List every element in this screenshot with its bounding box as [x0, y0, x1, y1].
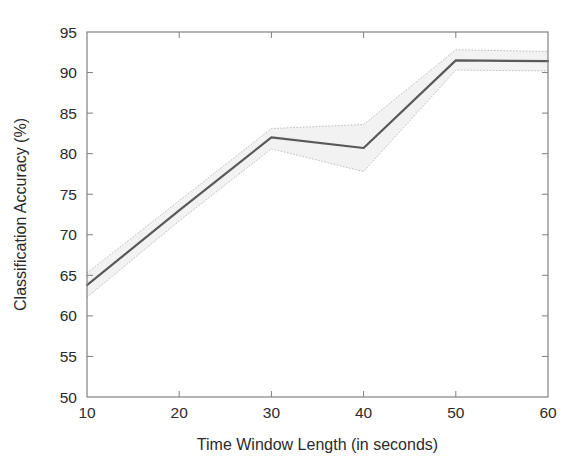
- y-axis-title: Classification Accuracy (%): [12, 118, 29, 311]
- x-tick-label-10: 10: [78, 404, 96, 421]
- x-tick-label-40: 40: [355, 404, 373, 421]
- x-axis-title: Time Window Length (in seconds): [197, 436, 438, 453]
- y-tick-label-85: 85: [60, 105, 77, 122]
- y-tick-label-65: 65: [60, 267, 77, 284]
- y-tick-label-75: 75: [60, 186, 77, 203]
- confidence-band-lower-edge: [87, 70, 548, 297]
- y-tick-label-60: 60: [60, 307, 78, 324]
- y-tick-label-95: 95: [60, 24, 77, 41]
- data-series-line-0: [87, 60, 548, 285]
- x-tick-label-20: 20: [171, 404, 189, 421]
- y-tick-label-70: 70: [60, 226, 78, 243]
- chart-figure: 10203040506050556065707580859095Time Win…: [0, 0, 582, 472]
- chart-plot-area: 10203040506050556065707580859095Time Win…: [0, 0, 582, 472]
- y-tick-label-55: 55: [60, 348, 77, 365]
- x-tick-label-60: 60: [539, 404, 557, 421]
- x-tick-label-30: 30: [263, 404, 281, 421]
- confidence-band-fill: [87, 50, 548, 297]
- axis-frame: [87, 32, 548, 397]
- y-tick-label-90: 90: [60, 64, 78, 81]
- y-tick-label-80: 80: [60, 145, 78, 162]
- x-tick-label-50: 50: [447, 404, 465, 421]
- y-tick-label-50: 50: [60, 389, 78, 406]
